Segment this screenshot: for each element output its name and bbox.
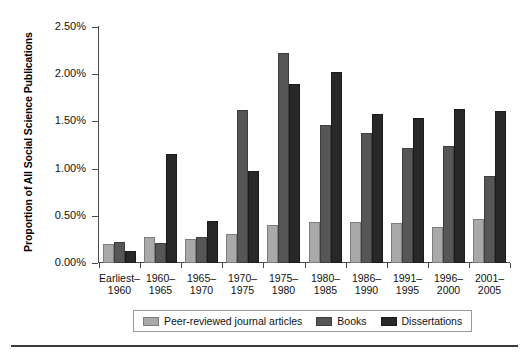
bar (372, 114, 383, 263)
x-axis-tick (510, 263, 511, 268)
bar (413, 118, 424, 263)
legend-entry: Peer-reviewed journal articles (143, 315, 302, 327)
y-axis-tick-label-wrap: 0.50% (32, 210, 86, 221)
bar (454, 109, 465, 263)
chart-legend: Peer-reviewed journal articlesBooksDisse… (133, 310, 472, 332)
x-axis-group-label-line2: 2005 (463, 284, 516, 296)
bar (237, 110, 248, 263)
bar (207, 221, 218, 263)
legend-swatch-icon (316, 317, 332, 326)
y-axis-tick-label: 0.00% (32, 257, 86, 268)
x-axis-group-label-line1: 1991– (393, 272, 422, 284)
x-axis-group-label-line1: 1986– (352, 272, 381, 284)
x-axis-tick (181, 263, 182, 268)
x-axis-group-label-line1: 1960– (146, 272, 175, 284)
chart-figure: Proportion of All Social Science Publica… (0, 0, 529, 359)
y-axis-tick-label: 1.50% (32, 115, 86, 126)
y-axis-tick (92, 216, 98, 217)
legend-label: Peer-reviewed journal articles (164, 315, 302, 327)
x-axis-group-label-line1: 1996– (434, 272, 463, 284)
bar (125, 251, 136, 263)
bar (196, 237, 207, 263)
y-axis-tick-label-wrap: 1.50% (32, 115, 86, 126)
legend-label: Books (337, 315, 366, 327)
x-axis-group-label-line1: 2001– (475, 272, 504, 284)
x-axis-group-label-line1: 1970– (228, 272, 257, 284)
y-axis-tick-label-wrap: 0.00% (32, 257, 86, 268)
y-axis-tick-label-wrap: 1.00% (32, 163, 86, 174)
y-axis-tick-label: 1.00% (32, 163, 86, 174)
bars-layer (99, 27, 510, 263)
y-axis-tick-label: 2.50% (32, 21, 86, 32)
bar (443, 146, 454, 263)
bar (484, 176, 495, 263)
legend-swatch-icon (381, 317, 397, 326)
x-axis-group-label-line1: 1980– (311, 272, 340, 284)
y-axis-tick (92, 263, 98, 264)
bar (289, 84, 300, 263)
bar (495, 111, 506, 263)
y-axis-tick (92, 121, 98, 122)
y-axis-tick-label: 0.50% (32, 210, 86, 221)
legend-swatch-icon (143, 317, 159, 326)
bar (114, 242, 125, 263)
y-axis-tick-label: 2.00% (32, 68, 86, 79)
legend-label: Dissertations (402, 315, 463, 327)
x-axis-tick (305, 263, 306, 268)
y-axis-tick (92, 169, 98, 170)
bar (402, 148, 413, 263)
bar (320, 125, 331, 263)
x-axis-group-label: 2001–2005 (463, 272, 516, 296)
x-axis-group-label-line1: 1975– (269, 272, 298, 284)
bar (185, 239, 196, 263)
bar (391, 223, 402, 263)
y-axis-tick-label-wrap: 2.00% (32, 68, 86, 79)
x-axis-tick (346, 263, 347, 268)
x-axis-group-label-line1: 1965– (187, 272, 216, 284)
bar (309, 222, 320, 263)
x-axis-tick (222, 263, 223, 268)
bar (278, 53, 289, 263)
bar (432, 227, 443, 263)
x-axis-tick (140, 263, 141, 268)
bar (226, 234, 237, 263)
bar (473, 219, 484, 263)
bar (103, 244, 114, 263)
bar (331, 72, 342, 263)
footer-divider (11, 345, 518, 347)
bar (248, 171, 259, 263)
x-axis-tick (469, 263, 470, 268)
bar (155, 243, 166, 263)
bar (361, 133, 372, 263)
bar (144, 237, 155, 263)
bar (350, 222, 361, 263)
y-axis-tick (92, 74, 98, 75)
y-axis-tick (92, 27, 98, 28)
bar (267, 225, 278, 263)
x-axis-tick (263, 263, 264, 268)
bar (166, 154, 177, 263)
legend-entry: Books (316, 315, 366, 327)
x-axis-tick (428, 263, 429, 268)
x-axis-tick (99, 263, 100, 268)
legend-entry: Dissertations (381, 315, 463, 327)
y-axis-tick-label-wrap: 2.50% (32, 21, 86, 32)
x-axis-tick (387, 263, 388, 268)
